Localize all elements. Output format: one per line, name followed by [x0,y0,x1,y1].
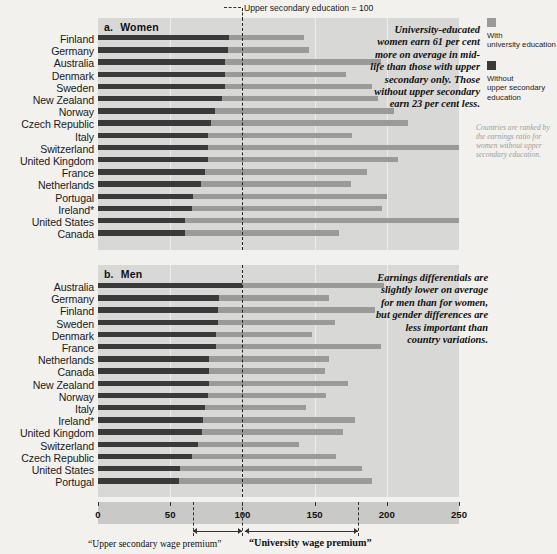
legend-label-without-line1: Without [487,74,545,83]
category-label: New Zealand [33,379,94,391]
university-premium-arrow-line [245,531,358,532]
bar-without-upper-secondary [98,35,229,40]
upper-secondary-premium-arrow-line [193,531,242,532]
axis-dash-100 [242,502,243,536]
bar-without-upper-secondary [98,368,209,373]
bar-without-upper-secondary [98,145,208,150]
category-label: Finland [60,305,94,317]
axis-tick-50 [170,502,171,506]
reference-line-caption-text: Upper secondary education = 100 [244,3,373,13]
category-label: Sweden [56,318,94,330]
axis-band [98,502,459,524]
category-label: Denmark [52,70,94,82]
upper-secondary-premium-arrowhead-right [238,528,242,534]
panel-title-men: b.Men [104,268,142,280]
panel-letter-women: a. [104,21,113,33]
bar-without-upper-secondary [98,466,180,471]
legend-item-without-upper-secondary: Without upper secondary education [487,61,545,102]
bar-without-upper-secondary [98,169,205,174]
bar-without-upper-secondary [98,320,218,325]
category-label: Norway [59,391,94,403]
axis-tick-0 [98,502,99,506]
bar-without-upper-secondary [98,405,205,410]
category-label: Czech Republic [21,118,94,130]
axis-tick-label: 150 [307,509,323,520]
bar-without-upper-secondary [98,194,193,199]
category-label: Ireland* [58,415,94,427]
category-label: Sweden [56,82,94,94]
category-label: United Kingdom [20,155,94,167]
panel-letter-men: b. [104,268,114,280]
category-label: United States [32,216,94,228]
bar-without-upper-secondary [98,332,216,337]
axis-tick-200 [387,502,388,506]
panel-annotation-men: Earnings differentials are slightly lowe… [370,272,488,346]
legend-label-without-line3: education [487,93,545,102]
bar-without-upper-secondary [98,206,192,211]
axis-tick-label: 0 [95,509,100,520]
bar-without-upper-secondary [98,47,228,52]
category-label: Portugal [55,476,94,488]
bar-without-upper-secondary [98,181,201,186]
category-label: Germany [51,293,94,305]
bar-without-upper-secondary [98,417,203,422]
category-label: Denmark [52,330,94,342]
category-label: Netherlands [38,179,94,191]
category-label: Finland [60,33,94,45]
category-label: Canada [57,228,94,240]
category-label: Italy [75,403,94,415]
reference-line-100 [242,265,243,497]
category-label: Switzerland [40,440,94,452]
bar-without-upper-secondary [98,157,208,162]
bar-without-upper-secondary [98,96,222,101]
axis-tick-250 [459,502,460,506]
university-premium-label: “University wage premium” [249,537,372,548]
bar-without-upper-secondary [98,478,179,483]
legend-label-with-line2: university education [487,40,556,49]
category-label: France [62,167,94,179]
bar-without-upper-secondary [98,344,216,349]
bar-without-upper-secondary [98,133,208,138]
category-label: France [62,342,94,354]
category-label: New Zealand [33,94,94,106]
bar-without-upper-secondary [98,393,208,398]
ranking-note: Countries are ranked by the earnings rat… [476,123,554,159]
category-label: Netherlands [38,354,94,366]
axis-tick-label: 200 [379,509,395,520]
bar-without-upper-secondary [98,283,242,288]
bar-without-upper-secondary [98,381,209,386]
bar-without-upper-secondary [98,108,215,113]
axis-tick-150 [315,502,316,506]
bar-without-upper-secondary [98,356,209,361]
bar-without-upper-secondary [98,120,211,125]
panel-title-text-men: Men [121,268,143,280]
category-label: Portugal [55,192,94,204]
bar-without-upper-secondary [98,442,198,447]
university-premium-arrowhead-right [354,528,358,534]
category-label: Ireland* [58,204,94,216]
category-label: United States [32,464,94,476]
legend-label-with-line1: With [487,31,556,40]
category-label: Czech Republic [21,452,94,464]
upper-secondary-premium-label: “Upper secondary wage premium” [88,538,221,549]
category-label: United Kingdom [20,427,94,439]
category-label: Germany [51,45,94,57]
figure-sheet: Upper secondary education = 100 With uni… [0,0,557,554]
panel-title-women: a.Women [104,21,159,33]
bar-without-upper-secondary [98,84,225,89]
bar-without-upper-secondary [98,307,218,312]
upper-secondary-premium-arrowhead-left [193,528,197,534]
bar-without-upper-secondary [98,218,185,223]
reference-line-caption: Upper secondary education = 100 [224,3,373,13]
category-label: Norway [59,106,94,118]
dashed-line-swatch [224,7,241,8]
category-label: Australia [54,57,94,69]
legend-item-with-university: With university education [487,18,556,50]
bar-without-upper-secondary [98,59,225,64]
legend-swatch-without-upper-secondary [487,61,496,70]
reference-line-extension-top [242,8,243,20]
category-label: Australia [54,281,94,293]
bar-without-upper-secondary [98,454,192,459]
bar-without-upper-secondary [98,230,185,235]
legend-label-without-line2: upper secondary [487,83,545,92]
